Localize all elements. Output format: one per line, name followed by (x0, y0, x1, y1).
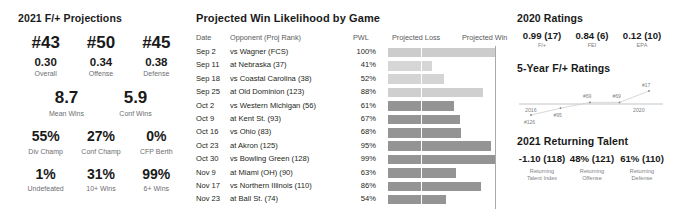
wins-value: 8.7 (32, 89, 101, 107)
talent-label-line2: Offense (567, 175, 617, 183)
wins-row: 8.7 Mean Wins 5.9 Conf Wins (18, 89, 184, 118)
returning-talent-row: -1.10 (118) Returning Talent Index 48% (… (517, 153, 667, 183)
bar-midline-divider (421, 113, 422, 126)
rating-cell-epa: 0.12 (10) EPA (617, 30, 667, 49)
bar-midline-divider (421, 59, 422, 72)
cell-pwl: 67% (350, 114, 376, 123)
cell-opponent: at Kent St. (93) (230, 114, 281, 123)
rank-value: #43 (18, 34, 73, 52)
prob-value: 55% (18, 129, 73, 144)
rating-value: 0.34 (73, 55, 128, 69)
sparkline-point-label: #126 (524, 119, 535, 125)
rating-label: F/+ (517, 42, 567, 50)
rank-row: #43 0.30 Overall #50 0.34 Offense #45 0.… (18, 34, 184, 78)
projected-win-likelihood-panel: Projected Win Likelihood by Game Date Op… (196, 12, 498, 207)
table-row[interactable]: Sep 25at Old Dominion (123)88% (196, 86, 498, 99)
cell-pwl: 61% (350, 101, 376, 110)
wins-label: Conf Wins (101, 109, 170, 118)
talent-value: 48% (121) (567, 153, 617, 165)
prob-label: Div Champ (18, 147, 73, 156)
cell-opponent: at Ball St. (74) (230, 194, 278, 203)
sparkline-point-label: #69 (613, 93, 622, 99)
bar-midline-divider (421, 86, 422, 99)
sparkline-start-year: 2016 (525, 107, 537, 113)
prob-label: 6+ Wins (129, 184, 184, 193)
prob-value: 31% (73, 167, 128, 182)
rating-value: 0.99 (17) (517, 30, 567, 42)
prob-cell-ten-plus-wins: 31% 10+ Wins (73, 167, 128, 193)
column-header-projected-win: Projected Win (462, 33, 507, 42)
pwl-bar-zone (388, 73, 498, 86)
table-row[interactable]: Sep 18vs Coastal Carolina (38)52% (196, 73, 498, 86)
table-row[interactable]: Oct 9at Kent St. (93)67% (196, 113, 498, 126)
prob-value: 1% (18, 167, 73, 182)
returning-talent-title: 2021 Returning Talent (517, 135, 667, 147)
prob-value: 0% (129, 129, 184, 144)
rating-label: EPA (617, 42, 667, 50)
wins-value: 5.9 (101, 89, 170, 107)
table-row[interactable]: Sep 2vs Wagner (FCS)100% (196, 46, 498, 59)
cell-pwl: 41% (350, 60, 376, 69)
table-row[interactable]: Nov 9at Miami (OH) (90)63% (196, 167, 498, 180)
table-row[interactable]: Oct 16vs Ohio (83)68% (196, 126, 498, 139)
pwl-bar (388, 128, 461, 138)
prob-label: 10+ Wins (73, 184, 128, 193)
rank-label: Defense (129, 69, 184, 78)
pwl-bar-zone (388, 86, 498, 99)
cell-date: Nov 23 (196, 194, 220, 203)
table-row[interactable]: Nov 17vs Northern Illinois (110)86% (196, 180, 498, 193)
column-header-date: Date (196, 33, 211, 42)
table-header-row: Date Opponent (Proj Rank) PWL Projected … (196, 33, 498, 46)
table-row[interactable]: Nov 23at Ball St. (74)54% (196, 193, 498, 206)
cell-opponent: at Akron (125) (230, 141, 278, 150)
prob-cell-undefeated: 1% Undefeated (18, 167, 73, 193)
prob-label: Conf Champ (73, 147, 128, 156)
sparkline-point-labels: #126#95#69#69#17 (524, 82, 651, 125)
pwl-bar (388, 195, 446, 205)
cell-date: Sep 11 (196, 60, 220, 69)
rating-cell-fplus: 0.99 (17) F/+ (517, 30, 567, 49)
bar-midline-divider (421, 180, 422, 193)
table-row[interactable]: Oct 2vs Western Michigan (56)61% (196, 100, 498, 113)
talent-cell-defense: 61% (110) Returning Defense (617, 153, 667, 183)
bar-midline-divider (421, 46, 422, 59)
cell-opponent: vs Bowling Green (128) (230, 154, 309, 163)
prob-cell-cfp-berth: 0% CFP Berth (129, 129, 184, 155)
talent-value: 61% (110) (617, 153, 667, 165)
table-row[interactable]: Sep 11at Nebraska (37)41% (196, 59, 498, 72)
bar-midline-divider (421, 167, 422, 180)
rank-cell-offense: #50 0.34 Offense (73, 34, 128, 78)
rank-cell-overall: #43 0.30 Overall (18, 34, 73, 78)
cell-date: Sep 25 (196, 87, 220, 96)
column-header-projected-loss: Projected Loss (392, 33, 440, 42)
probability-row-champ: 55% Div Champ 27% Conf Champ 0% CFP Bert… (18, 129, 184, 155)
pwl-bar (388, 182, 481, 192)
pwl-bar-zone (388, 153, 498, 166)
cell-pwl: 68% (350, 127, 376, 136)
sparkline-point (589, 102, 591, 104)
talent-label-line1: Returning (517, 168, 567, 176)
rating-value: 0.30 (18, 55, 73, 69)
cell-date: Oct 16 (196, 127, 218, 136)
fplus-projections-title: 2021 F/+ Projections (18, 12, 184, 24)
pwl-bar (388, 48, 496, 58)
cell-date: Oct 9 (196, 114, 214, 123)
pwl-bar-zone (388, 113, 498, 126)
cell-pwl: 95% (350, 141, 376, 150)
sparkline-point (648, 90, 650, 92)
cell-pwl: 86% (350, 181, 376, 190)
team-projection-card: 2021 F/+ Projections #43 0.30 Overall #5… (0, 0, 681, 224)
sparkline-point (560, 107, 562, 109)
rating-value: 0.12 (10) (617, 30, 667, 42)
cell-date: Nov 9 (196, 168, 216, 177)
table-row[interactable]: Oct 23at Akron (125)95% (196, 140, 498, 153)
ratings-talent-panel: 2020 Ratings 0.99 (17) F/+ 0.84 (6) FEI … (517, 12, 667, 183)
five-year-ratings-title: 5-Year F/+ Ratings (517, 62, 667, 74)
cell-opponent: vs Northern Illinois (110) (230, 181, 312, 190)
wins-label: Mean Wins (32, 109, 101, 118)
pwl-bar (388, 115, 460, 125)
cell-pwl: 100% (350, 47, 376, 56)
table-row[interactable]: Oct 30vs Bowling Green (128)99% (196, 153, 498, 166)
schedule-table: Date Opponent (Proj Rank) PWL Projected … (196, 33, 498, 207)
pwl-bar (388, 61, 432, 71)
